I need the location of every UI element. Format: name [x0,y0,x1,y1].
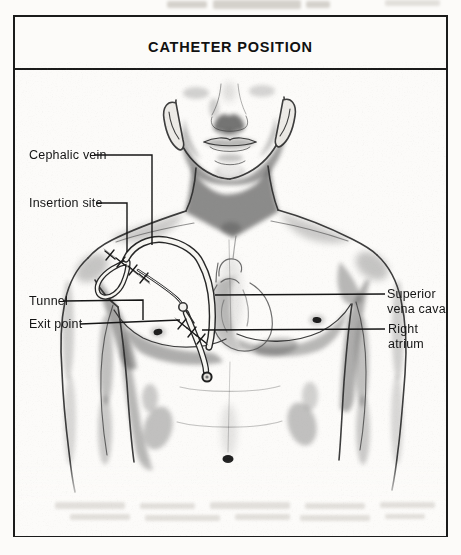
ghost-text-smudge [300,515,370,521]
ghost-text-smudge [306,1,330,8]
label-cephalic-vein: Cephalic vein [29,148,107,163]
ghost-text-smudge [380,502,435,508]
ghost-text-smudge [70,514,130,520]
label-superior-vena-cava: Superior vena cava [387,287,449,317]
ghost-text-smudge [140,503,195,509]
ghost-text-smudge [235,514,290,520]
label-exit-point: Exit point [29,317,82,332]
ghost-text-smudge [167,1,207,8]
ghost-text-smudge [210,502,290,509]
ghost-text-smudge [213,0,301,9]
label-right-atrium: Right atrium [388,322,436,352]
scanned-figure-page: CATHETER POSITION [0,0,461,555]
label-tunnel: Tunnel [29,294,68,309]
ghost-text-smudge [145,515,220,521]
grain-overlay [15,62,446,536]
anatomical-figure [0,0,461,555]
ghost-text-smudge [385,0,440,6]
ghost-text-smudge [385,514,425,519]
ghost-text-smudge [305,503,365,509]
label-insertion-site: Insertion site [29,196,103,211]
ghost-text-smudge [55,502,125,509]
